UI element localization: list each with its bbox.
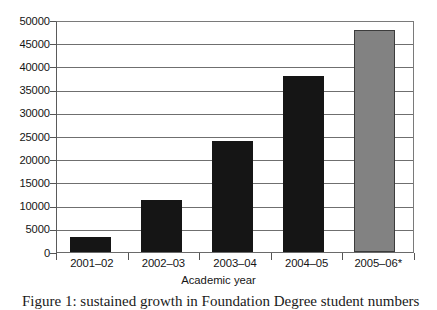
y-tick-label-20000: 20000 <box>6 155 50 166</box>
x-tick-label-2003-04: 2003–04 <box>195 257 275 270</box>
x-tick-label-2001-02: 2001–02 <box>52 257 132 270</box>
bar-2004-05[interactable] <box>283 76 324 252</box>
y-tick-label-40000: 40000 <box>6 62 50 73</box>
bar-2005-06[interactable] <box>354 30 395 252</box>
y-tick-label-35000: 35000 <box>6 85 50 96</box>
y-tick-label-45000: 45000 <box>6 39 50 50</box>
bar-2002-03[interactable] <box>141 200 182 252</box>
x-tick-label-2002-03: 2002–03 <box>123 257 203 270</box>
bar-2003-04[interactable] <box>212 141 253 252</box>
y-tick-label-30000: 30000 <box>6 108 50 119</box>
y-axis-labels: 50000 45000 40000 35000 30000 25000 2000… <box>0 0 50 268</box>
bar-2001-02[interactable] <box>70 237 111 252</box>
y-tick-label-50000: 50000 <box>6 16 50 27</box>
x-tick-label-2005-06: 2005–06* <box>338 257 418 270</box>
y-tick-label-25000: 25000 <box>6 132 50 143</box>
y-tick-label-10000: 10000 <box>6 201 50 212</box>
x-axis-title: Academic year <box>0 274 437 286</box>
y-tick-label-15000: 15000 <box>6 178 50 189</box>
y-tick-label-5000: 5000 <box>6 224 50 235</box>
figure-caption: Figure 1: sustained growth in Foundation… <box>22 292 437 310</box>
x-tick-label-2004-05: 2004–05 <box>267 257 347 270</box>
bar-chart: 50000 45000 40000 35000 30000 25000 2000… <box>0 0 437 268</box>
plot-area <box>56 21 414 253</box>
